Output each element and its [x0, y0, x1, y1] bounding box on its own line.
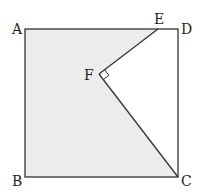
- right-angle-marker: [103, 70, 109, 80]
- label-e: E: [154, 11, 164, 27]
- label-f: F: [84, 67, 94, 83]
- geometry-diagram: A E D F B C: [0, 0, 205, 192]
- label-c: C: [181, 173, 192, 189]
- shaded-region: [25, 29, 178, 177]
- label-a: A: [11, 21, 23, 37]
- label-d: D: [181, 21, 192, 37]
- label-b: B: [12, 173, 22, 189]
